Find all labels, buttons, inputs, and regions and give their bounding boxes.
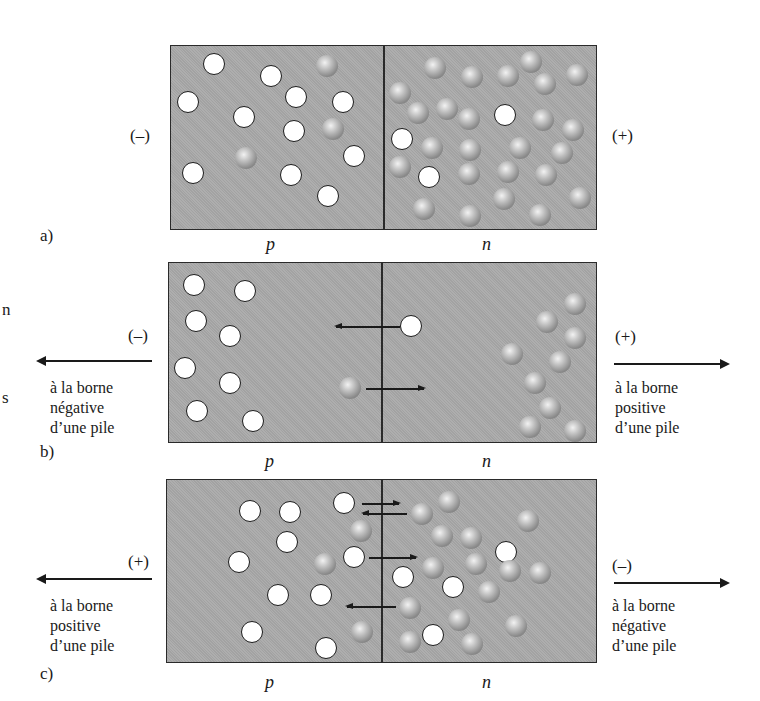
electron-particle: [460, 527, 482, 549]
region-label-p: p: [266, 234, 275, 254]
hole-particle: [283, 120, 305, 142]
electron-particle: [524, 372, 546, 394]
terminal-sign: (–): [612, 556, 632, 576]
arrow-right-icon: [614, 363, 728, 365]
electron-particle: [459, 205, 481, 227]
edge-text-fragment: n: [2, 300, 11, 320]
electron-particle: [431, 525, 453, 547]
battery-terminal-caption: à la bornepositived’une pile: [615, 378, 679, 438]
electron-particle: [509, 137, 531, 159]
electron-particle: [411, 503, 433, 525]
hole-particle: [422, 624, 444, 646]
hole-particle: [279, 501, 301, 523]
arrow-right-icon: [366, 388, 424, 390]
hole-particle: [177, 91, 199, 113]
electron-particle: [389, 82, 411, 104]
hole-particle: [234, 280, 256, 302]
caption-line: positive: [615, 398, 679, 418]
hole-particle: [219, 372, 241, 394]
terminal-sign: (+): [128, 552, 149, 572]
terminal-sign: (–): [128, 326, 148, 346]
hole-particle: [392, 566, 414, 588]
electron-particle: [478, 581, 500, 603]
hole-particle: [343, 546, 365, 568]
hole-particle: [418, 166, 440, 188]
arrow-right-icon: [614, 582, 728, 584]
hole-particle: [333, 492, 355, 514]
hole-particle: [285, 86, 307, 108]
panel-a-junction-box: [170, 45, 597, 230]
hole-particle: [442, 576, 464, 598]
caption-line: d’une pile: [50, 418, 114, 438]
electron-particle: [517, 510, 539, 532]
arrow-left-icon: [38, 578, 152, 580]
region-label-p: p: [265, 451, 274, 471]
region-label-n: n: [482, 234, 491, 254]
electron-particle: [566, 64, 588, 86]
region-label-p: p: [265, 672, 274, 692]
electron-particle: [407, 102, 429, 124]
electron-particle: [536, 311, 558, 333]
hole-particle: [186, 400, 208, 422]
hole-particle: [332, 91, 354, 113]
hole-particle: [494, 104, 516, 126]
electron-particle: [529, 204, 551, 226]
caption-line: négative: [50, 398, 114, 418]
electron-particle: [465, 553, 487, 575]
electron-particle: [458, 108, 480, 130]
caption-line: positive: [50, 616, 114, 636]
electron-particle: [413, 198, 435, 220]
hole-particle: [185, 310, 207, 332]
region-label-n: n: [482, 451, 491, 471]
electron-particle: [461, 66, 483, 88]
electron-particle: [534, 73, 556, 95]
hole-particle: [317, 185, 339, 207]
electron-particle: [562, 119, 584, 141]
electron-particle: [569, 187, 591, 209]
arrow-left-icon: [347, 606, 396, 608]
panel-b-junction-box: [168, 262, 597, 443]
arrow-right-icon: [362, 503, 399, 505]
electron-particle: [499, 560, 521, 582]
electron-particle: [505, 615, 527, 637]
junction-divider: [383, 46, 385, 229]
hole-particle: [233, 106, 255, 128]
arrow-left-icon: [336, 326, 400, 328]
caption-line: à la borne: [50, 378, 114, 398]
electron-particle: [459, 139, 481, 161]
electron-particle: [564, 293, 586, 315]
electron-particle: [350, 520, 372, 542]
electron-particle: [539, 397, 561, 419]
electron-particle: [421, 137, 443, 159]
caption-line: à la borne: [615, 378, 679, 398]
edge-text-fragment: s: [2, 388, 9, 408]
battery-terminal-caption: à la bornenégatived’une pile: [612, 596, 676, 656]
electron-particle: [322, 118, 344, 140]
caption-line: d’une pile: [50, 636, 114, 656]
panel-c-junction-box: [166, 479, 597, 663]
electron-particle: [422, 557, 444, 579]
electron-particle: [316, 55, 338, 77]
hole-particle: [495, 541, 517, 563]
terminal-sign: (–): [130, 126, 150, 146]
junction-divider: [381, 480, 383, 662]
electron-particle: [436, 98, 458, 120]
caption-line: d’une pile: [612, 636, 676, 656]
electron-particle: [458, 163, 480, 185]
arrow-left-icon: [38, 360, 152, 362]
hole-particle: [343, 145, 365, 167]
hole-particle: [241, 621, 263, 643]
electron-particle: [549, 351, 571, 373]
electron-particle: [493, 188, 515, 210]
hole-particle: [242, 410, 264, 432]
arrow-right-icon: [369, 557, 416, 559]
electron-particle: [519, 416, 541, 438]
electron-particle: [520, 51, 542, 73]
region-label-n: n: [482, 672, 491, 692]
caption-line: d’une pile: [615, 418, 679, 438]
battery-terminal-caption: à la bornepositived’une pile: [50, 596, 114, 656]
hole-particle: [276, 531, 298, 553]
terminal-sign: (+): [612, 126, 633, 146]
hole-particle: [315, 637, 337, 659]
electron-particle: [351, 621, 373, 643]
